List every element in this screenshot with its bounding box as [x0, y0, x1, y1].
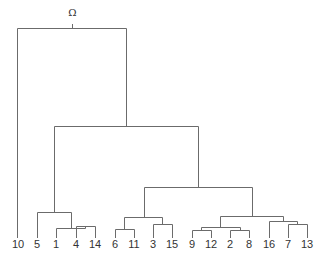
- leaf-label: 7: [285, 238, 291, 250]
- merge-link: [154, 225, 173, 239]
- dendrogram: Ω 10514146113159122816713: [0, 0, 324, 266]
- leaf-label: 2: [227, 238, 233, 250]
- leaf-label: 12: [205, 238, 217, 250]
- leaf-label: 3: [150, 238, 156, 250]
- merge-link: [202, 228, 241, 231]
- leaf-label: 8: [246, 238, 252, 250]
- leaf-label: 6: [112, 238, 118, 250]
- merge-link: [38, 213, 72, 239]
- merge-link: [55, 127, 199, 213]
- leaf-label: 11: [128, 238, 139, 250]
- leaf-label: 16: [263, 238, 275, 250]
- leaf-label: 1: [53, 238, 59, 250]
- merge-link: [116, 230, 135, 239]
- leaf-label: 9: [189, 238, 195, 250]
- leaf-labels: 10514146113159122816713: [12, 238, 313, 250]
- leaf-label: 14: [89, 238, 101, 250]
- merge-link: [270, 222, 298, 239]
- merge-link: [193, 231, 212, 239]
- merge-link: [145, 188, 253, 218]
- merge-link: [125, 218, 163, 230]
- dendrogram-links: [18, 29, 308, 239]
- leaf-label: 13: [301, 238, 313, 250]
- merge-link: [18, 29, 127, 239]
- leaf-label: 15: [166, 238, 178, 250]
- leaf-label: 4: [73, 238, 79, 250]
- merge-link: [231, 231, 250, 239]
- leaf-label: 10: [12, 238, 24, 250]
- merge-link: [289, 225, 308, 239]
- leaf-label: 5: [34, 238, 40, 250]
- root-label: Ω: [68, 7, 76, 18]
